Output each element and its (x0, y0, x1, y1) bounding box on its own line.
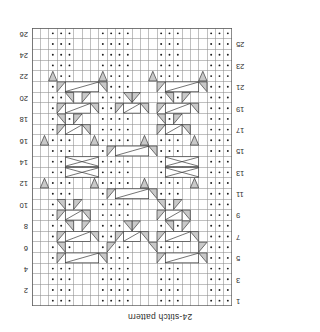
row-number-8: 8 (24, 220, 28, 231)
row-number-11: 11 (236, 188, 244, 199)
chart-grid (32, 28, 232, 306)
row-number-7: 7 (236, 231, 240, 242)
row-number-15: 15 (236, 146, 244, 157)
row-number-26: 26 (20, 28, 28, 39)
row-number-24: 24 (20, 49, 28, 60)
row-number-22: 22 (20, 71, 28, 82)
row-numbers-even: 2468101214161820222426 (8, 28, 30, 306)
row-number-18: 18 (20, 114, 28, 125)
chart-sheet: 24-stitch pattern 135791113151719212325 … (0, 0, 320, 332)
row-number-13: 13 (236, 167, 244, 178)
row-number-16: 16 (20, 135, 28, 146)
row-number-10: 10 (20, 199, 28, 210)
row-number-20: 20 (20, 92, 28, 103)
row-number-25: 25 (236, 39, 244, 50)
row-numbers-odd: 135791113151719212325 (234, 28, 256, 306)
row-number-3: 3 (236, 274, 240, 285)
row-number-6: 6 (24, 242, 28, 253)
row-number-12: 12 (20, 178, 28, 189)
row-number-4: 4 (24, 263, 28, 274)
row-number-19: 19 (236, 103, 244, 114)
chart-title: 24-stitch pattern (0, 312, 320, 322)
row-number-23: 23 (236, 60, 244, 71)
row-number-14: 14 (20, 156, 28, 167)
pattern-chart[interactable] (32, 28, 232, 306)
row-number-21: 21 (236, 81, 244, 92)
row-number-5: 5 (236, 253, 240, 264)
row-number-9: 9 (236, 210, 240, 221)
row-number-1: 1 (236, 295, 240, 306)
row-number-2: 2 (24, 285, 28, 296)
row-number-17: 17 (236, 124, 244, 135)
